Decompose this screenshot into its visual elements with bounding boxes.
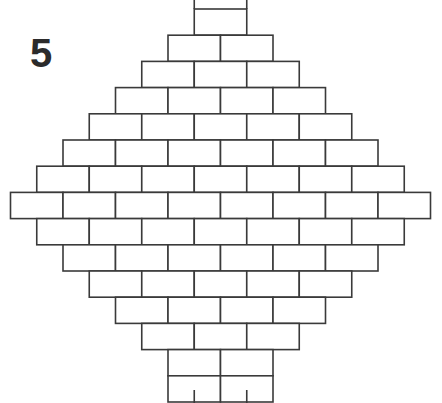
brick (168, 245, 221, 271)
brick (299, 166, 352, 192)
brick (168, 35, 221, 61)
brick (168, 297, 221, 323)
brick (247, 61, 300, 87)
brick (89, 114, 142, 140)
brick (63, 192, 116, 218)
figure-container: 5 (0, 0, 442, 403)
brick (116, 192, 169, 218)
brick (247, 166, 300, 192)
brick (63, 140, 116, 166)
brick (63, 245, 116, 271)
brick (299, 114, 352, 140)
brick (194, 114, 247, 140)
brick (142, 114, 195, 140)
brick (273, 88, 326, 114)
brick-rows-group (11, 9, 431, 402)
brick (247, 114, 300, 140)
top-stub-lines-group (194, 0, 247, 9)
brick (116, 140, 169, 166)
brick (194, 323, 247, 349)
brick (299, 271, 352, 297)
brick (168, 192, 221, 218)
brick (89, 166, 142, 192)
brick (378, 192, 431, 218)
brick (273, 192, 326, 218)
brick (194, 166, 247, 192)
brick (326, 192, 379, 218)
brick (273, 140, 326, 166)
brick (326, 140, 379, 166)
brick (194, 61, 247, 87)
brick (352, 166, 405, 192)
brick (221, 35, 274, 61)
brick (221, 192, 274, 218)
brick (89, 271, 142, 297)
brick (142, 271, 195, 297)
brick (116, 88, 169, 114)
brick (352, 219, 405, 245)
brick (116, 245, 169, 271)
brick (247, 323, 300, 349)
brick (247, 271, 300, 297)
brick (194, 9, 247, 35)
brick (194, 219, 247, 245)
brick (299, 219, 352, 245)
brick (142, 61, 195, 87)
brick-pattern-diagram (0, 0, 442, 403)
brick (221, 88, 274, 114)
brick (142, 166, 195, 192)
brick (168, 350, 221, 376)
brick (89, 219, 142, 245)
brick (37, 219, 90, 245)
brick (194, 271, 247, 297)
brick (221, 350, 274, 376)
brick (221, 140, 274, 166)
brick (11, 192, 64, 218)
brick (142, 323, 195, 349)
brick (142, 219, 195, 245)
brick (168, 88, 221, 114)
brick (273, 245, 326, 271)
brick (326, 245, 379, 271)
brick (116, 297, 169, 323)
brick (273, 297, 326, 323)
brick (221, 297, 274, 323)
brick (37, 166, 90, 192)
brick (247, 219, 300, 245)
brick (168, 140, 221, 166)
brick (221, 245, 274, 271)
